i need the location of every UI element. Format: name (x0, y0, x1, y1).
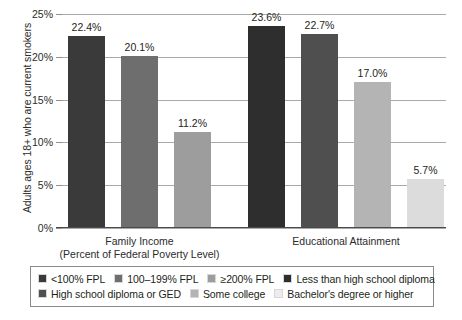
y-tick-label: 25% (32, 8, 53, 20)
y-tick-mark (56, 228, 62, 229)
legend-swatch-icon (38, 289, 47, 298)
bar: 5.7% (407, 179, 444, 228)
bar: 20.1% (121, 56, 158, 228)
legend-item[interactable]: ≥200% FPL (207, 273, 274, 285)
legend-swatch-icon (114, 274, 123, 283)
legend-label: High school diploma or GED (51, 288, 181, 300)
group-label-line2: (Percent of Federal Poverty Level) (30, 248, 250, 261)
bar-value-label: 22.7% (305, 19, 335, 31)
legend-item[interactable]: <100% FPL (38, 273, 105, 285)
group-label: Educational Attainment (236, 235, 456, 248)
legend-label: Some college (203, 288, 265, 300)
group-label: Family Income(Percent of Federal Poverty… (30, 235, 250, 261)
y-tick-mark (56, 142, 62, 143)
y-tick-label: 20% (32, 51, 53, 63)
legend-swatch-icon (38, 274, 47, 283)
y-tick-mark (56, 185, 62, 186)
bar-value-label: 17.0% (358, 67, 388, 79)
y-tick-mark (56, 57, 62, 58)
legend-item[interactable]: Bachelor's degree or higher (274, 288, 413, 300)
bar-value-label: 23.6% (252, 11, 282, 23)
legend-item[interactable]: Less than high school diploma (283, 273, 434, 285)
y-tick-label: 0% (38, 222, 53, 234)
legend-label: ≥200% FPL (220, 273, 274, 285)
group-label-line1: Educational Attainment (292, 235, 399, 247)
legend-swatch-icon (190, 289, 199, 298)
bar: 23.6% (248, 26, 285, 228)
y-axis-title: Adults ages 18+ who are current smokers (21, 3, 33, 233)
legend-swatch-icon (207, 274, 216, 283)
legend-label: Less than high school diploma (296, 273, 434, 285)
bar: 22.4% (68, 36, 105, 228)
bar-value-label: 22.4% (72, 21, 102, 33)
legend-swatch-icon (283, 274, 292, 283)
y-tick-label: 5% (38, 179, 53, 191)
legend-label: 100–199% FPL (127, 273, 198, 285)
legend-label: Bachelor's degree or higher (287, 288, 413, 300)
legend-row-1: <100% FPL100–199% FPL≥200% FPLLess than … (38, 271, 426, 286)
y-tick-label: 10% (32, 136, 53, 148)
y-tick-mark (56, 100, 62, 101)
legend-item[interactable]: Some college (190, 288, 265, 300)
y-tick-mark (56, 14, 62, 15)
group-label-line1: Family Income (105, 235, 173, 247)
bar: 17.0% (354, 82, 391, 228)
bar-value-label: 11.2% (178, 117, 207, 129)
bar-value-label: 20.1% (125, 41, 155, 53)
legend-item[interactable]: 100–199% FPL (114, 273, 198, 285)
chart-legend: <100% FPL100–199% FPL≥200% FPLLess than … (30, 266, 434, 307)
bar: 22.7% (301, 34, 338, 228)
x-axis-line (56, 227, 446, 228)
bar-chart-figure: Adults ages 18+ who are current smokers … (0, 0, 462, 320)
legend-item[interactable]: High school diploma or GED (38, 288, 181, 300)
y-tick-label: 15% (32, 94, 53, 106)
legend-label: <100% FPL (51, 273, 105, 285)
legend-row-2: High school diploma or GEDSome collegeBa… (38, 286, 426, 301)
bar: 11.2% (174, 132, 211, 228)
legend-swatch-icon (274, 289, 283, 298)
bar-value-label: 5.7% (414, 164, 438, 176)
gridline (62, 228, 446, 229)
plot-area: 0%5%10%15%20%25% 22.4%20.1%11.2%23.6%22.… (62, 14, 446, 228)
